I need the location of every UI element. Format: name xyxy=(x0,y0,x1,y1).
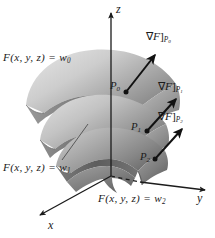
level-surface-label-w1-prefix: F(x, y, z) = xyxy=(3,161,59,173)
level-surface-label-w1-var: w xyxy=(59,161,67,173)
level-surface-label-w2-sub: 2 xyxy=(162,198,166,206)
point-dot-P1 xyxy=(145,129,150,134)
level-surface-label-w1-sub: 1 xyxy=(67,167,71,175)
nabla-icon: ∇ xyxy=(158,110,165,122)
point-label-P1: P1 xyxy=(131,121,141,134)
level-surface-label-w2-prefix: F(x, y, z) = xyxy=(98,192,154,204)
level-surface-label-w0-prefix: F(x, y, z) = xyxy=(3,51,59,63)
gradient-label-P0: ∇F]P0 xyxy=(146,31,171,44)
level-surface-label-w2: F(x, y, z) = w2 xyxy=(98,193,166,206)
axis-label-z: z xyxy=(116,3,121,15)
point-label-P1-var: P xyxy=(131,120,138,132)
gradient-label-P1-point-index: 1 xyxy=(180,89,183,94)
gradient-label-P2-point-index: 2 xyxy=(180,119,183,124)
axis-label-y: y xyxy=(197,192,202,204)
gradient-label-P2: ∇F]P2 xyxy=(158,111,183,124)
point-dot-P2 xyxy=(153,157,158,162)
level-surface-label-w1: F(x, y, z) = w1 xyxy=(3,162,71,175)
gradient-label-P2-fn: F xyxy=(165,110,172,122)
level-surface-gradient-figure: F(x, y, z) = w0 F(x, y, z) = w1 F(x, y, … xyxy=(0,0,215,238)
level-surface-label-w2-var: w xyxy=(154,192,162,204)
axis-label-x: x xyxy=(48,219,53,231)
point-label-P0-sub: 0 xyxy=(117,85,120,92)
level-surface-label-w0: F(x, y, z) = w0 xyxy=(3,52,71,65)
point-label-P2-sub: 2 xyxy=(147,156,150,163)
gradient-label-P1: ∇F]P1 xyxy=(158,81,183,94)
gradient-label-P1-fn: F xyxy=(165,80,172,92)
nabla-icon: ∇ xyxy=(158,80,165,92)
point-label-P0: P0 xyxy=(110,80,120,93)
point-label-P1-sub: 1 xyxy=(138,126,141,133)
gradient-label-P0-fn: F xyxy=(153,30,160,42)
level-surface-label-w0-var: w xyxy=(59,51,67,63)
gradient-label-P0-point-index: 0 xyxy=(168,39,171,44)
point-label-P2-var: P xyxy=(140,150,147,162)
point-label-P2: P2 xyxy=(140,151,150,164)
point-label-P0-var: P xyxy=(110,79,117,91)
nabla-icon: ∇ xyxy=(146,30,153,42)
level-surface-label-w0-sub: 0 xyxy=(67,57,71,65)
point-dot-P0 xyxy=(124,90,129,95)
